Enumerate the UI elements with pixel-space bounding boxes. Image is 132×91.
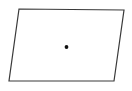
parallelogram-diagram-svg <box>0 0 132 91</box>
center-point-marker <box>65 45 69 49</box>
parallelogram-outline <box>9 9 124 81</box>
figure-canvas <box>0 0 132 91</box>
